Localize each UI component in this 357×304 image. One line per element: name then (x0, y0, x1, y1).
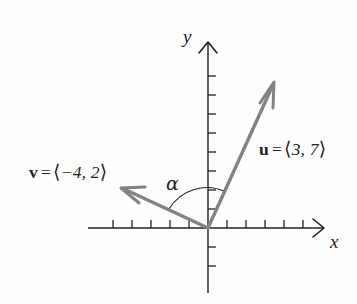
vector-v-components: −4, 2 (61, 162, 100, 182)
vector-v-open-bracket: ⟨ (53, 161, 61, 182)
vector-u-open-bracket: ⟨ (284, 138, 292, 159)
angle-alpha-label: α (166, 174, 179, 193)
vector-v-close-bracket: ⟩ (100, 161, 108, 182)
x-axis-label: x (330, 232, 338, 251)
vector-u-close-bracket: ⟩ (319, 138, 327, 159)
vector-u-label: u=⟨3, 7⟩ (259, 139, 326, 159)
vector-v (121, 187, 208, 228)
y-axis-ticks-negative (208, 247, 216, 266)
y-axis (199, 42, 217, 293)
vector-u-equals: = (270, 139, 284, 159)
vector-u-symbol: u (259, 139, 270, 159)
vector-u-components: 3, 7 (292, 139, 319, 159)
vector-u-arrowhead (260, 82, 274, 108)
vector-v-symbol: v (29, 162, 39, 182)
x-axis-ticks-negative (113, 220, 189, 228)
vector-v-equals: = (39, 162, 53, 182)
y-axis-ticks-positive (208, 76, 216, 209)
vector-v-shaft (124, 189, 208, 228)
y-axis-label: y (183, 27, 191, 46)
vector-v-label: v=⟨−4, 2⟩ (29, 162, 107, 182)
vector-angle-figure: y x u=⟨3, 7⟩ v=⟨−4, 2⟩ α (0, 0, 357, 304)
x-axis-ticks-positive (227, 220, 303, 228)
